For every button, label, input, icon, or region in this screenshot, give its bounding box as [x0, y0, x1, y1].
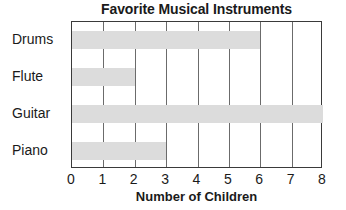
chart-title: Favorite Musical Instruments: [71, 1, 322, 17]
bar-fill: [72, 105, 323, 123]
category-label-piano: Piano: [0, 141, 65, 159]
x-tick-7: 7: [281, 170, 301, 188]
bar-chart: Favorite Musical Instruments DrumsFluteG…: [0, 0, 346, 210]
category-axis-labels: DrumsFluteGuitarPiano: [0, 21, 68, 168]
bar-piano: [72, 142, 166, 160]
x-tick-3: 3: [155, 170, 175, 188]
bar-fill: [72, 68, 135, 86]
plot-area: [71, 21, 322, 168]
x-tick-8: 8: [312, 170, 332, 188]
bar-guitar: [72, 105, 323, 123]
x-tick-4: 4: [187, 170, 207, 188]
x-tick-2: 2: [124, 170, 144, 188]
x-axis-tick-labels: 012345678: [71, 170, 322, 188]
x-tick-6: 6: [249, 170, 269, 188]
bar-fill: [72, 31, 260, 49]
bar-fill: [72, 142, 166, 160]
x-axis-title: Number of Children: [71, 189, 322, 204]
bar-flute: [72, 68, 135, 86]
category-label-drums: Drums: [0, 30, 65, 48]
x-tick-0: 0: [61, 170, 81, 188]
category-label-flute: Flute: [0, 67, 65, 85]
category-label-guitar: Guitar: [0, 104, 65, 122]
bar-drums: [72, 31, 260, 49]
x-tick-1: 1: [92, 170, 112, 188]
bars-layer: [72, 22, 321, 167]
x-tick-5: 5: [218, 170, 238, 188]
